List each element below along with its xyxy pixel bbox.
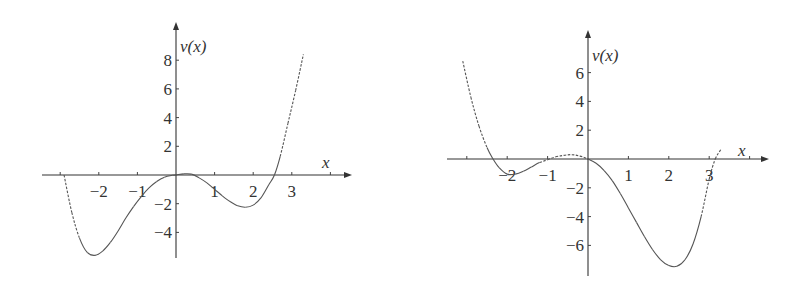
curve-segment [103, 242, 111, 251]
curve-segment [715, 149, 721, 159]
x-axis-arrow-icon [344, 172, 352, 178]
x-tick-label: −1 [128, 182, 146, 201]
y-tick-label: −2 [566, 179, 584, 198]
y-axis-arrow-icon [173, 22, 179, 30]
y-tick-label: −2 [154, 195, 172, 214]
curve-segment [126, 207, 134, 218]
curve-segment [288, 90, 296, 123]
ticks [60, 60, 330, 232]
y-axis-label: v(x) [180, 37, 207, 56]
y-tick-label: −4 [154, 223, 173, 242]
curve-segment [507, 174, 515, 175]
x-tick-label: 3 [288, 182, 297, 201]
curve-segment [261, 185, 269, 198]
y-tick-label: 8 [164, 51, 173, 70]
curve-segment [572, 155, 580, 156]
curve-segment [677, 260, 685, 266]
x-tick-label: −2 [90, 182, 108, 201]
x-tick-label: 1 [624, 166, 633, 185]
y-axis-label: v(x) [592, 46, 619, 65]
curve-segment [515, 171, 523, 174]
curve-segment [95, 251, 103, 255]
curve-segment [222, 196, 230, 202]
curve-segment [604, 171, 612, 181]
curve-segment [620, 194, 628, 208]
y-tick-label: 6 [576, 64, 585, 83]
x-axis-label: x [737, 141, 746, 160]
curve-segment [636, 222, 644, 236]
y-tick-label: 6 [164, 80, 173, 99]
tick-labels: −2−11238642−2−4 [90, 51, 296, 242]
curve-segment [238, 206, 246, 207]
curve-segment [556, 155, 564, 156]
curve-segment [493, 159, 499, 168]
curve-segment [596, 163, 604, 170]
curve-segment [523, 167, 531, 171]
curve-segment [628, 208, 636, 222]
curve-segment [64, 175, 72, 212]
x-tick-label: 2 [665, 166, 674, 185]
curve-segment [564, 155, 572, 156]
x-tick-label: −1 [539, 166, 557, 185]
curve-segment [157, 177, 165, 181]
x-axis-label: x [321, 153, 330, 172]
x-axis-arrow-icon [761, 156, 769, 162]
curve-segment [230, 202, 238, 206]
curve-segment [693, 217, 701, 244]
curve-segment [653, 250, 661, 260]
plot-right: −2−1123642−2−4−6 v(x) x [447, 30, 769, 276]
curve-segment [269, 175, 275, 185]
y-tick-label: −4 [566, 208, 585, 227]
curve-segment [612, 181, 620, 194]
y-tick-label: 4 [164, 109, 173, 128]
curve-segment [463, 61, 471, 97]
curve-segment [588, 159, 596, 163]
curve-segment [87, 252, 95, 255]
x-tick-label: 2 [249, 182, 258, 201]
curve-segment [72, 212, 80, 238]
curve-segment [199, 178, 207, 183]
curve-segment [471, 97, 479, 126]
curve-segment [685, 244, 693, 260]
curve-segment [487, 147, 493, 159]
y-tick-label: −6 [566, 236, 584, 255]
curve-segment [118, 218, 126, 231]
curve-segment [80, 238, 88, 252]
y-tick-label: 2 [164, 137, 173, 156]
curve-v-of-x [463, 61, 722, 267]
curve-segment [645, 237, 653, 250]
curve-segment [149, 181, 157, 187]
curve-segment [479, 126, 487, 148]
curve-segment [540, 160, 548, 163]
curve-v-of-x [64, 54, 303, 255]
figure-canvas: −2−11238642−2−4 v(x) x −2−1123642−2−4−6 … [0, 0, 803, 294]
curve-segment [110, 231, 118, 242]
curve-segment [661, 260, 669, 266]
curve-segment [274, 156, 280, 175]
curve-segment [669, 266, 677, 267]
curve-segment [164, 175, 172, 177]
y-tick-label: 2 [576, 121, 585, 140]
curve-segment [296, 54, 304, 90]
y-tick-label: 4 [576, 92, 585, 111]
y-axis-arrow-icon [585, 30, 591, 38]
curve-segment [245, 205, 253, 207]
plot-left: −2−11238642−2−4 v(x) x [42, 22, 352, 258]
x-tick-label: 3 [705, 166, 714, 185]
curve-segment [280, 123, 288, 156]
